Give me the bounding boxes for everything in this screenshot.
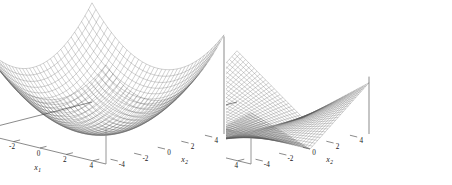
x2-tick-mark <box>181 141 188 143</box>
mesh-line-v <box>17 57 135 123</box>
x2-tick-mark <box>350 135 357 137</box>
mesh-line-u <box>68 41 200 108</box>
mesh-line-u <box>89 9 221 76</box>
left-surface-panel: 0102030405060-4-2024-4-2024f(x)x1x2 <box>0 0 226 185</box>
x2-axis-title: x2 <box>180 155 188 165</box>
x1-axis-title-sub: 1 <box>38 167 41 173</box>
mesh-line-v <box>94 48 212 114</box>
mesh-line-u <box>227 62 359 120</box>
x1-tick-label: 2 <box>63 156 67 164</box>
x1-tick-label: 4 <box>235 162 239 170</box>
x2-tick-mark <box>326 141 333 143</box>
left-surface-svg: 0102030405060-4-2024-4-2024f(x)x1x2 <box>0 0 226 185</box>
mesh-line-u <box>64 46 196 113</box>
x2-tick-label: -4 <box>264 161 270 169</box>
mesh-line-u <box>71 37 203 104</box>
right-surface-panel: 0510152025303540-4-2024-4-2024f(x)x1x2 <box>226 0 452 185</box>
x2-tick-label: 4 <box>359 137 363 145</box>
surface-plot-figure: 0102030405060-4-2024-4-2024f(x)x1x2 0510… <box>0 0 452 185</box>
mesh-line-u <box>0 42 113 109</box>
x2-tick-mark <box>205 135 212 137</box>
x1-tick-label: 0 <box>37 150 41 158</box>
mesh-line-u <box>237 51 369 118</box>
x2-tick-label: 2 <box>336 143 340 151</box>
mesh-line-u <box>226 82 341 125</box>
mesh-line-u <box>85 16 217 83</box>
x2-axis-title-sub: 2 <box>330 159 333 165</box>
x2-tick-mark <box>158 147 165 149</box>
x2-tick-label: -4 <box>119 161 125 169</box>
x1-tick-mark <box>40 146 46 148</box>
x2-tick-mark <box>111 159 118 161</box>
x2-tick-mark <box>256 159 263 161</box>
right-surface-svg: 0510152025303540-4-2024-4-2024f(x)x1x2 <box>226 0 452 185</box>
mesh-line-u <box>0 50 120 117</box>
axes-group: 0102030405060-4-2024-4-2024f(x)x1x2 <box>0 7 224 173</box>
x2-tick-label: 0 <box>312 149 316 157</box>
mesh-line-u <box>19 68 151 135</box>
x2-tick-mark <box>279 153 286 155</box>
x1-axis-title: x1 <box>33 163 41 173</box>
mesh-line-v <box>0 9 96 75</box>
x1-tick-mark <box>93 159 99 161</box>
mesh-line-v <box>226 92 277 127</box>
x2-axis-title-sub: 2 <box>185 159 188 165</box>
x1-tick-label: 4 <box>90 162 94 170</box>
x2-tick-label: 2 <box>191 143 195 151</box>
x1-axis-line <box>0 132 106 164</box>
x2-axis-title: x2 <box>325 155 333 165</box>
surface-mesh-group <box>226 51 369 149</box>
x2-tick-mark <box>303 147 310 149</box>
mesh-line-v <box>5 46 123 112</box>
x2-tick-mark <box>134 153 141 155</box>
x2-tick-label: 4 <box>214 137 218 145</box>
x1-tick-mark <box>238 159 244 161</box>
x2-tick-label: -2 <box>142 155 148 163</box>
x1-tick-mark <box>14 140 20 142</box>
mesh-line-v <box>102 40 220 106</box>
x1-tick-label: -2 <box>9 143 15 151</box>
mesh-line-v <box>40 68 158 134</box>
surface-mesh-group <box>0 3 224 136</box>
mesh-line-u <box>226 68 354 122</box>
x2-tick-label: -2 <box>287 155 293 163</box>
mesh-line-u <box>12 67 144 134</box>
mesh-line-u <box>232 57 364 120</box>
x2-tick-label: 0 <box>167 149 171 157</box>
mesh-line-v <box>226 65 251 120</box>
mesh-line-u <box>33 67 165 134</box>
x1-tick-mark <box>66 153 72 155</box>
